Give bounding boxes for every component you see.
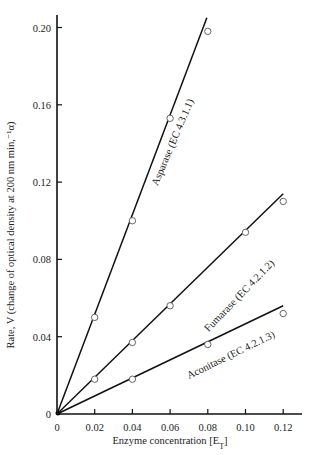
series-line (57, 306, 283, 414)
x-tick-label: 0.12 (274, 422, 292, 433)
y-tick-label: 0 (46, 409, 51, 420)
series-label: Aconitase (EC 4.2.1.3) (185, 328, 277, 381)
x-tick-label: 0 (54, 422, 59, 433)
x-tick-label: 0.02 (86, 422, 104, 433)
data-point (167, 303, 173, 309)
series-group (56, 18, 287, 416)
y-tick-label: 0.20 (33, 23, 51, 34)
y-tick-label: 0.08 (33, 254, 51, 265)
x-axis-title-main: Enzyme concentration [E (112, 435, 219, 446)
series-label: Asparase (EC 4.3.1.1) (149, 97, 197, 188)
y-axis-title: Rate, V (change of optical density at 20… (5, 121, 17, 348)
x-ticks: 00.020.040.060.080.100.12 (54, 409, 292, 433)
y-tick-label: 0.04 (33, 332, 52, 343)
x-tick-label: 0.04 (123, 422, 142, 433)
x-axis-title: Enzyme concentration [ET] (112, 435, 227, 451)
series-label: Fumarase (EC 4.2.1.2) (202, 257, 277, 334)
data-point (92, 314, 98, 320)
axes (57, 15, 302, 414)
data-point (242, 229, 248, 235)
data-point (280, 310, 286, 316)
data-point (280, 198, 286, 204)
series-2 (57, 194, 286, 414)
data-point (129, 218, 135, 224)
origin-marker (56, 411, 61, 416)
y-tick-label: 0.16 (33, 100, 51, 111)
x-tick-label: 0.10 (236, 422, 254, 433)
x-tick-label: 0.06 (161, 422, 179, 433)
y-tick-label: 0.12 (33, 177, 51, 188)
x-axis-title-suffix: ] (224, 435, 228, 446)
data-point (205, 28, 211, 34)
series-line (57, 18, 207, 414)
data-point (167, 115, 173, 121)
enzyme-rate-chart: 00.020.040.060.080.100.12 00.040.080.120… (0, 0, 315, 455)
series-1 (57, 18, 211, 414)
x-tick-label: 0.08 (199, 422, 217, 433)
data-point (129, 339, 135, 345)
data-point (129, 376, 135, 382)
data-point (205, 341, 211, 347)
data-point (92, 376, 98, 382)
